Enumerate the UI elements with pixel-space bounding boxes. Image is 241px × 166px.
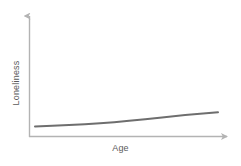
chart-plot-area [0,0,241,166]
y-axis-label: Loneliness [10,0,23,166]
x-axis-label: Age [0,143,241,153]
loneliness-by-age-chart: Loneliness Age [0,0,241,166]
loneliness-trend-line [35,112,218,126]
